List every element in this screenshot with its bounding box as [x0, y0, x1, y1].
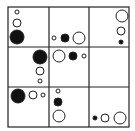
hollow-circle: [114, 112, 126, 124]
hollow-circle: [38, 79, 42, 83]
hollow-circle: [52, 36, 56, 40]
filled-circle: [61, 34, 69, 42]
hollow-circle: [41, 93, 45, 97]
filled-circle: [10, 30, 24, 44]
filled-circle: [69, 52, 77, 60]
grid-lines: [8, 7, 129, 127]
matrix-cell-r0-c1: [52, 32, 85, 44]
hollow-circle: [29, 91, 37, 99]
grid-border: [8, 7, 129, 127]
matrix-cell-r2-c2: [93, 112, 126, 124]
hollow-circle: [117, 27, 125, 35]
matrix-cell-r0-c0: [10, 10, 24, 44]
hollow-circle: [73, 32, 85, 44]
hollow-circle: [101, 114, 109, 122]
filled-circle: [93, 116, 97, 120]
hollow-circle: [56, 89, 60, 93]
hollow-circle: [36, 67, 44, 75]
matrix-cell-r2-c1: [53, 89, 65, 122]
matrix-cell-r1-c1: [53, 50, 86, 62]
hollow-circle: [15, 10, 19, 14]
matrix-cell-r2-c0: [11, 89, 45, 103]
filled-circle: [119, 40, 123, 44]
matrix-cells: [10, 10, 128, 124]
pattern-matrix: [0, 0, 135, 131]
matrix-cell-r1-c0: [33, 50, 47, 83]
hollow-circle: [116, 10, 128, 22]
hollow-circle: [82, 54, 86, 58]
hollow-circle: [13, 19, 21, 27]
hollow-circle: [53, 110, 65, 122]
matrix-cell-r0-c2: [116, 10, 128, 44]
filled-circle: [33, 50, 47, 64]
hollow-circle: [53, 50, 65, 62]
filled-circle: [54, 98, 62, 106]
filled-circle: [11, 89, 25, 103]
